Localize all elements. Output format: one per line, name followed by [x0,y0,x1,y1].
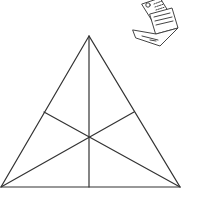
outer-triangle [1,36,180,187]
median-bottom-right [44,112,180,187]
laptop-documents-icon [130,0,190,48]
median-bottom-left [1,112,134,187]
